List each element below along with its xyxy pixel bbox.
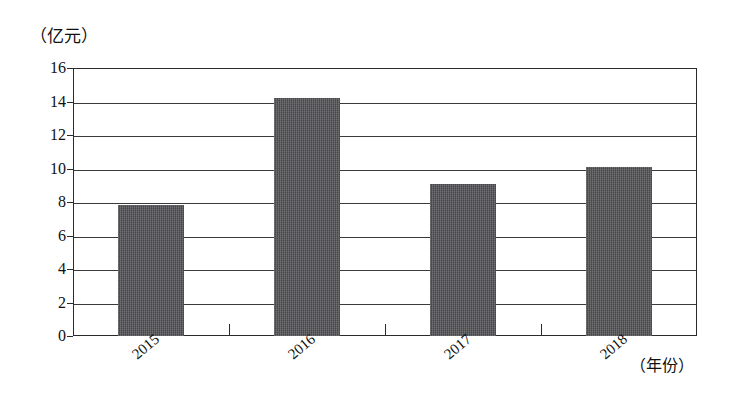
x-axis-unit-caption: （年份） <box>630 352 694 376</box>
y-axis-tick-label: 4 <box>20 261 66 277</box>
y-axis-tick-label: 14 <box>20 94 66 110</box>
bar <box>586 167 652 336</box>
bar-chart: （亿元） 0246810121416 2015201620172018 （年份） <box>0 0 752 420</box>
bar <box>118 205 184 336</box>
x-axis-tick-label: 2015 <box>129 331 162 363</box>
x-axis-tick-mark <box>541 324 542 336</box>
bar-series <box>73 68 697 336</box>
y-axis-tick-label: 2 <box>20 295 66 311</box>
x-axis-tick-labels: 2015201620172018 <box>73 336 697 420</box>
x-axis-tick-label: 2018 <box>597 331 630 363</box>
y-axis-tick-label: 16 <box>20 60 66 76</box>
x-axis-tick-mark <box>385 324 386 336</box>
bar <box>274 98 340 336</box>
y-axis-tick-label: 12 <box>20 127 66 143</box>
y-axis-unit-caption: （亿元） <box>30 22 98 47</box>
y-axis-tick-label: 0 <box>20 328 66 344</box>
y-axis-tick-labels: 0246810121416 <box>10 68 66 336</box>
y-axis-tick-label: 8 <box>20 194 66 210</box>
y-axis-tick-label: 6 <box>20 228 66 244</box>
y-axis-tick-label: 10 <box>20 161 66 177</box>
bar <box>430 184 496 336</box>
x-axis-tick-mark <box>229 324 230 336</box>
x-axis-tick-label: 2016 <box>285 331 318 363</box>
x-axis-tick-label: 2017 <box>441 331 474 363</box>
